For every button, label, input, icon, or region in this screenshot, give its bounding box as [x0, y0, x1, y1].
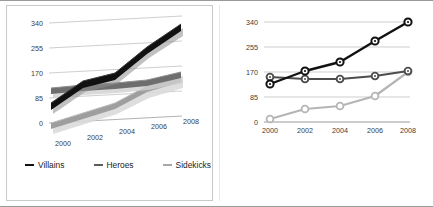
right-xtick-2002: 2002: [297, 126, 313, 135]
right-xtick-2000: 2000: [262, 126, 278, 135]
right-ytick-340: 340: [246, 18, 258, 27]
left-legend-label-heroes: Heroes: [107, 160, 134, 170]
left-legend-item-sidekicks[interactable]: Sidekicks: [163, 160, 211, 170]
left-series-villains: [51, 24, 183, 114]
left-xtick-2004: 2004: [119, 127, 135, 136]
right-chart-panel: 340 255 170 85 0: [219, 5, 427, 201]
right-xtick-2008: 2008: [400, 126, 416, 135]
left-xtick-2006: 2006: [151, 122, 167, 131]
left-chart-plot: 340 255 170 85 0: [7, 6, 214, 156]
left-xtick-2008: 2008: [183, 117, 199, 126]
right-ytick-170: 170: [246, 68, 258, 77]
right-ytick-255: 255: [246, 43, 258, 52]
left-ytick-85: 85: [35, 94, 43, 103]
left-xtick-2000: 2000: [55, 139, 71, 148]
left-ytick-255: 255: [31, 44, 43, 53]
right-xtick-2004: 2004: [332, 126, 348, 135]
right-chart-plot: 340 255 170 85 0: [220, 5, 428, 155]
left-ytick-0: 0: [39, 119, 43, 128]
screenshot-root: 340 255 170 85 0: [0, 0, 433, 207]
right-series-heroes: [267, 68, 412, 83]
left-chart-legend: Villains Heroes Sidekicks: [25, 158, 211, 172]
left-legend-item-villains[interactable]: Villains: [25, 160, 64, 170]
left-ytick-340: 340: [31, 19, 43, 28]
left-legend-item-heroes[interactable]: Heroes: [94, 160, 134, 170]
right-xtick-2006: 2006: [367, 126, 383, 135]
left-ytick-170: 170: [31, 69, 43, 78]
right-ytick-0: 0: [254, 118, 258, 127]
right-ytick-85: 85: [250, 93, 258, 102]
line-marker-icon: [25, 164, 34, 166]
left-legend-label-sidekicks: Sidekicks: [176, 160, 211, 170]
left-chart-panel: 340 255 170 85 0: [6, 5, 213, 201]
left-legend-label-villains: Villains: [38, 160, 64, 170]
left-xtick-2002: 2002: [87, 133, 103, 142]
line-marker-icon: [163, 164, 172, 166]
line-marker-icon: [94, 164, 103, 166]
